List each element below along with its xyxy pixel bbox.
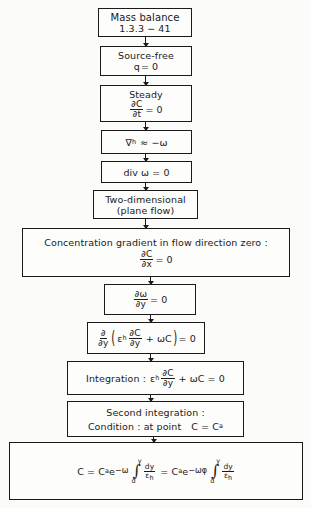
dc-dx-fraction: ∂C ∂x — [140, 250, 153, 269]
dy-eps-fraction-1: dy εh — [144, 463, 155, 480]
nabla-symbol: ∇ — [126, 137, 132, 148]
nabla-h-equation: ∇h ≈ −ω — [126, 137, 168, 148]
arrow-9 — [150, 354, 151, 361]
mass-balance-ref: 1.3.3 − 41 — [119, 23, 170, 34]
d-dy-equation: ∂ ∂y ( εh ∂C ∂y + ωC ) = 0 — [96, 329, 196, 348]
second-integration-title: Second integration : — [106, 407, 204, 418]
integral-2: y ∫ d — [210, 458, 220, 484]
step-steady: Steady ∂C ∂t = 0 — [100, 85, 192, 122]
result-equation: C = Ca e −ω y ∫ d dy εh = Ca e −ωφ y ∫ d — [77, 458, 235, 484]
arrow-7 — [150, 277, 151, 284]
open-paren: ( — [112, 330, 116, 347]
d-dy-operator: ∂ ∂y — [97, 329, 109, 348]
mass-balance-title: Mass balance — [111, 12, 180, 23]
step-second-integration: Second integration : Condition : at poin… — [67, 401, 244, 437]
source-free-title: Source-free — [118, 50, 174, 61]
close-paren: ) — [173, 330, 177, 347]
step-d-dy-expression: ∂ ∂y ( εh ∂C ∂y + ωC ) = 0 — [87, 322, 205, 354]
two-dimensional-detail: (plane flow) — [117, 205, 175, 216]
step-mass-balance: Mass balance 1.3.3 − 41 — [98, 8, 192, 37]
dc-dy-fraction: ∂C ∂y — [129, 329, 142, 348]
step-domega-dy: ∂ω ∂y = 0 — [104, 284, 196, 315]
step-concentration-gradient: Concentration gradient in flow direction… — [22, 228, 290, 277]
step-result: C = Ca e −ω y ∫ d dy εh = Ca e −ωφ y ∫ d — [9, 442, 303, 500]
div-omega-equation: div ω = 0 — [123, 167, 169, 178]
arrow-8 — [150, 315, 151, 322]
dy-eps-fraction-2: dy εh — [222, 463, 233, 480]
domega-dy-fraction: ∂ω ∂y — [134, 290, 148, 309]
steady-equation: ∂C ∂t = 0 — [129, 100, 162, 119]
concentration-gradient-title: Concentration gradient in flow direction… — [44, 237, 267, 248]
step-nabla-h: ∇h ≈ −ω — [101, 130, 192, 154]
arrow-1 — [145, 37, 146, 46]
exponent-1: −ω y ∫ d dy εh — [115, 458, 156, 484]
step-integration: Integration : εh ∂C ∂y + ωC = 0 — [67, 361, 244, 395]
step-div-omega: div ω = 0 — [101, 161, 192, 183]
source-free-equation: q = 0 — [134, 61, 158, 72]
arrow-4 — [145, 154, 146, 161]
arrow-2 — [145, 76, 146, 85]
step-source-free: Source-free q = 0 — [100, 46, 192, 76]
integral-1: y ∫ d — [132, 458, 142, 484]
two-dimensional-title: Two-dimensional — [105, 194, 186, 205]
domega-dy-equation: ∂ω ∂y = 0 — [133, 290, 168, 309]
integration-label: Integration : — [86, 373, 146, 384]
dc-dy-fraction: ∂C ∂y — [161, 369, 174, 388]
concentration-gradient-equation: ∂C ∂x = 0 — [139, 250, 172, 269]
steady-title: Steady — [129, 89, 163, 100]
second-integration-condition: Condition : at point C = Ca — [88, 421, 223, 432]
arrow-6 — [145, 219, 146, 228]
integration-equation: Integration : εh ∂C ∂y + ωC = 0 — [86, 369, 225, 388]
step-two-dimensional: Two-dimensional (plane flow) — [93, 190, 198, 219]
arrow-5 — [145, 183, 146, 190]
dc-dt-fraction: ∂C ∂t — [130, 100, 143, 119]
exponent-2: −ωφ y ∫ d dy εh — [188, 458, 235, 484]
arrow-3 — [145, 122, 146, 130]
